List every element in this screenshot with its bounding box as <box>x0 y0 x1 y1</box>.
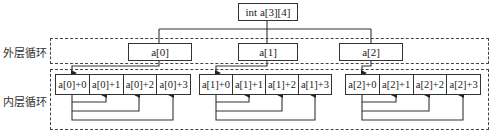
outer-row-label: a[0] <box>151 46 169 58</box>
inner-cell: a[1]+1 <box>233 75 266 94</box>
inner-group-1: a[1]+0 a[1]+1 a[1]+2 a[1]+3 <box>199 74 332 95</box>
inner-cell: a[2]+1 <box>380 75 414 94</box>
outer-row-box-2: a[2] <box>339 43 403 61</box>
root-array-label: int a[3][4] <box>246 6 291 18</box>
outer-row-box-1: a[1] <box>238 43 298 61</box>
inner-cell: a[0]+2 <box>124 75 158 94</box>
root-array-box: int a[3][4] <box>238 3 298 21</box>
outer-row-label: a[2] <box>362 46 380 58</box>
inner-cell: a[1]+0 <box>200 75 233 94</box>
inner-cell: a[0]+3 <box>157 75 190 94</box>
inner-cell: a[2]+2 <box>414 75 448 94</box>
inner-cell: a[1]+2 <box>266 75 299 94</box>
inner-cell: a[2]+3 <box>447 75 480 94</box>
inner-cell: a[1]+3 <box>299 75 331 94</box>
outer-loop-label: 外层循环 <box>3 44 47 60</box>
inner-cell: a[2]+0 <box>346 75 380 94</box>
inner-group-0: a[0]+0 a[0]+1 a[0]+2 a[0]+3 <box>55 74 191 95</box>
outer-row-box-0: a[0] <box>128 43 192 61</box>
inner-group-2: a[2]+0 a[2]+1 a[2]+2 a[2]+3 <box>345 74 481 95</box>
inner-cell: a[0]+1 <box>90 75 124 94</box>
inner-loop-label: 内层循环 <box>3 93 47 109</box>
inner-cell: a[0]+0 <box>56 75 90 94</box>
outer-row-label: a[1] <box>259 46 277 58</box>
